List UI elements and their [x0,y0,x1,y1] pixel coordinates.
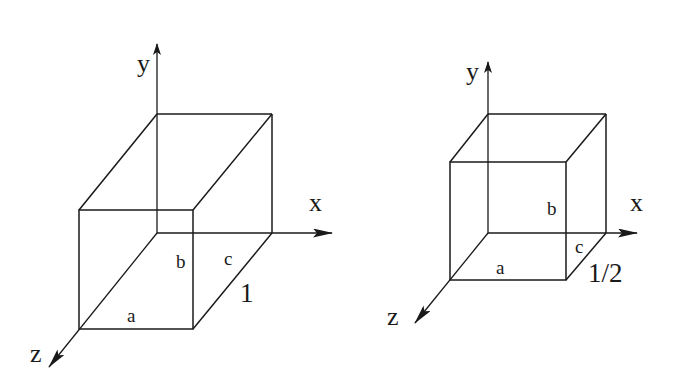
left-z-axis [49,233,157,367]
right-box-diagram: y x z b c a 1/2 [387,57,643,331]
right-c-label: c [575,236,583,257]
right-depth-label: 1/2 [588,258,623,288]
left-c-label: c [224,248,232,269]
left-depth-label: 1 [240,278,254,308]
left-box-diagram: y x z b c a 1 [30,44,332,368]
right-z-label: z [387,302,399,331]
right-a-label: a [496,257,505,278]
left-x-label: x [309,188,322,217]
left-z-label: z [30,339,42,368]
right-x-label: x [630,188,643,217]
right-y-label: y [466,57,479,86]
right-b-label: b [547,198,557,219]
diagram-canvas: y x z b c a 1 y x z b c a 1/2 [0,0,681,379]
left-a-label: a [127,305,136,326]
left-y-label: y [137,49,150,78]
left-b-label: b [176,251,186,272]
right-z-axis [415,233,488,323]
